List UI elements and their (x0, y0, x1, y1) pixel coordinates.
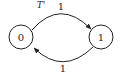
state-diagram: 0 1 1 T' 1 (0, 0, 126, 75)
transition-1-to-0-arrow (34, 47, 93, 62)
state-1: 1 (89, 25, 113, 49)
transition-1-to-0-label: 1 (60, 63, 66, 74)
transition-0-to-1-label: 1 (58, 1, 64, 12)
diagram-title-label: T' (37, 0, 45, 10)
state-0-label: 0 (18, 32, 24, 43)
transition-0-to-1-arrow (32, 14, 91, 30)
state-0: 0 (9, 25, 33, 49)
state-1-label: 1 (98, 32, 104, 43)
